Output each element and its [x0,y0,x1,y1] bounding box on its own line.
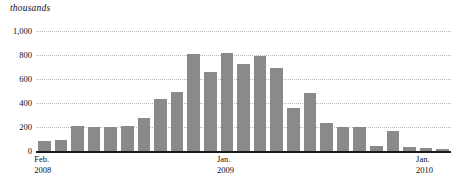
plot-area: 1,0008006004002000 [36,31,451,151]
x-tick-year: 2010 [416,165,433,176]
y-tick-label: 600 [0,74,32,84]
bar [121,126,134,151]
bar [38,141,51,151]
bar [104,127,117,151]
bar [287,108,300,151]
bar [237,64,250,151]
x-tick-label: Jan.2010 [416,154,433,175]
bar [353,127,366,151]
bar [204,72,217,151]
bar [71,126,84,151]
bar [187,54,200,151]
bar [387,131,400,151]
bar [320,123,333,151]
x-tick-month: Jan. [217,154,234,165]
y-tick-label: 200 [0,122,32,132]
bar [138,118,151,151]
y-tick-label: 400 [0,98,32,108]
bar [171,92,184,151]
bar [254,56,267,151]
y-tick-label: 0 [0,146,32,156]
x-tick-label: Feb.2008 [34,154,51,175]
x-tick-year: 2008 [34,165,51,176]
bar [154,99,167,151]
bar-chart-figure: thousands 1,0008006004002000 Feb.2008Jan… [0,0,451,182]
x-tick-month: Feb. [34,154,51,165]
units-caption: thousands [10,3,50,13]
x-tick-year: 2009 [217,165,234,176]
bar [88,127,101,151]
bar [55,140,68,151]
bars-layer [36,31,451,151]
bar [304,93,317,151]
bar [337,127,350,151]
x-tick-month: Jan. [416,154,433,165]
x-tick-label: Jan.2009 [217,154,234,175]
bar [221,53,234,151]
y-tick-label: 800 [0,50,32,60]
x-axis-line [36,151,451,153]
y-tick-label: 1,000 [0,26,32,36]
bar [270,68,283,151]
